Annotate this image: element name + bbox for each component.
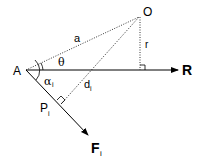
segment-d-subscript: i [90,85,92,92]
segment-a-label: a [74,32,81,44]
segment-a [26,17,139,70]
angle-arc-theta [41,63,43,70]
right-angle-marker-r [140,65,145,70]
right-angle-marker-p [57,96,65,104]
point-p-label: P [40,101,48,115]
vector-f-label: F [91,140,100,156]
segment-d [61,17,139,104]
point-a-label: A [13,64,21,78]
point-o-label: O [143,5,152,19]
diagram-canvas: A O a r θ α i d i P i R F i [0,0,201,161]
segment-r-label: r [145,39,149,50]
angle-alpha-label: α [44,75,52,88]
angle-theta-label: θ [58,56,65,69]
vector-f-subscript: i [100,149,102,158]
vector-r-label: R [182,62,192,78]
vector-f-line [26,70,88,135]
point-p-subscript: i [48,110,50,117]
angle-alpha-subscript: i [52,81,54,88]
